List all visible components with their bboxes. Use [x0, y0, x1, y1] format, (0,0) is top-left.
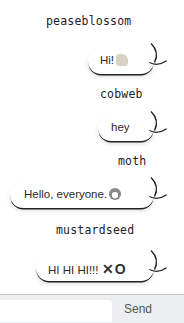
message-text: Hello, everyone. — [24, 188, 121, 200]
bubble-tail-icon — [148, 247, 168, 273]
message-input[interactable] — [0, 300, 112, 322]
username: cobweb — [100, 87, 143, 101]
chat-log: peaseblossom Hi! cobweb hey moth Hello, … — [0, 0, 184, 290]
speech-bubble: Hello, everyone. — [10, 182, 154, 208]
send-button[interactable]: Send — [124, 302, 152, 316]
bubble-tail-icon — [148, 108, 168, 134]
composer-bar: Send — [0, 294, 184, 323]
speech-bubble: HI HI HI!!! ✕O — [36, 255, 154, 281]
bubble-tail-icon — [148, 174, 168, 200]
username: peaseblossom — [46, 14, 131, 28]
message-text: HI HI HI!!! ✕O — [48, 261, 127, 277]
speech-bubble: hey — [98, 115, 154, 141]
waving-hand-icon — [116, 54, 128, 66]
message-text: hey — [111, 121, 130, 133]
xo-icon: ✕O — [102, 261, 127, 277]
username: mustardseed — [56, 223, 134, 237]
bubble-tail-icon — [148, 40, 168, 66]
message-text: Hi! — [100, 54, 128, 66]
username: moth — [118, 154, 147, 168]
speech-bubble: Hi! — [88, 48, 154, 74]
grinning-face-icon — [109, 188, 121, 200]
